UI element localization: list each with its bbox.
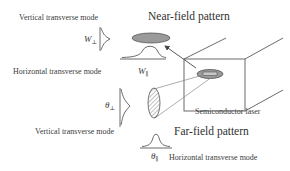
far-field-title: Far-field pattern — [174, 126, 249, 138]
near-field-spot — [132, 33, 170, 43]
near-vertical-mode-label: Vertical transverse mode — [19, 14, 98, 22]
far-horizontal-angle-symbol: θ∥ — [151, 152, 158, 162]
far-field-spot — [148, 88, 160, 118]
far-field-vertical-profile — [120, 88, 130, 127]
near-vertical-width-symbol: W⊥ — [84, 35, 97, 45]
far-vertical-mode-label: Vertical transverse mode — [35, 128, 114, 136]
near-horizontal-width-symbol: W∥ — [138, 67, 148, 77]
near-field-title: Near-field pattern — [148, 11, 230, 23]
near-field-vertical-profile — [100, 27, 110, 51]
semiconductor-laser-label: Semiconductor laser — [195, 108, 261, 116]
near-horizontal-mode-label: Horizontal transverse mode — [13, 68, 101, 76]
far-vertical-angle-symbol: θ⊥ — [105, 101, 115, 111]
far-field-horizontal-profile — [140, 134, 172, 148]
near-field-horizontal-profile — [120, 46, 166, 59]
far-horizontal-mode-label: Horizontal transverse mode — [169, 154, 257, 162]
laser-beam-pattern-diagram — [0, 0, 290, 171]
laser-emitter — [197, 70, 223, 79]
emission-arrow — [165, 46, 196, 68]
